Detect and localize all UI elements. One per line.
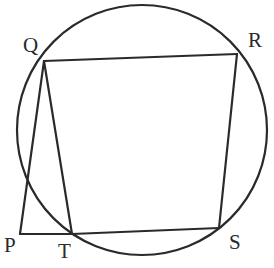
label-Q: Q: [23, 33, 38, 57]
segment-ST: [72, 228, 219, 234]
geometry-diagram: P Q R S T: [0, 0, 274, 268]
label-T: T: [58, 239, 71, 263]
label-S: S: [229, 230, 241, 254]
segment-RS: [219, 54, 237, 228]
segment-TQ: [44, 61, 72, 234]
label-R: R: [248, 28, 262, 52]
segment-QR: [44, 54, 237, 61]
label-P: P: [4, 233, 16, 257]
segments-group: [20, 54, 237, 234]
